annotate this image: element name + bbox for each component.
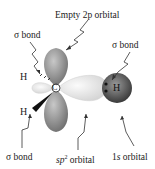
label-sp2-orbital: sp2 orbital xyxy=(56,152,95,165)
atom-hydrogen-right: H xyxy=(113,83,120,93)
electron-dot xyxy=(104,89,107,92)
label-sigma-bond-bottom-left: σ bond xyxy=(6,152,33,162)
atom-hydrogen-upper: H xyxy=(20,72,27,82)
label-empty-2p-orbital: Empty 2p orbital xyxy=(55,10,119,20)
p-orbital-top-lobe xyxy=(44,48,68,86)
label-sigma-bond-top-right: σ bond xyxy=(112,40,139,50)
orbital-drawing xyxy=(0,0,155,169)
electron-dot xyxy=(104,82,107,85)
label-1s-orbital: 1s orbital xyxy=(112,152,148,162)
arrow-empty-p xyxy=(66,20,88,50)
arrow-1s xyxy=(122,116,134,146)
label-sigma-bond-top-left: σ bond xyxy=(14,30,41,40)
sp2-small-lobe xyxy=(32,83,54,94)
sp2-large-lobe xyxy=(58,75,107,100)
atom-carbon: C xyxy=(52,83,57,93)
arrow-sigma-top-left xyxy=(30,42,40,74)
arrow-sp2 xyxy=(78,114,86,150)
orbital-diagram: Empty 2p orbital σ bond σ bond σ bond sp… xyxy=(0,0,155,169)
arrow-sigma-bottom-left xyxy=(22,114,30,148)
atom-hydrogen-lower: H xyxy=(20,107,27,117)
